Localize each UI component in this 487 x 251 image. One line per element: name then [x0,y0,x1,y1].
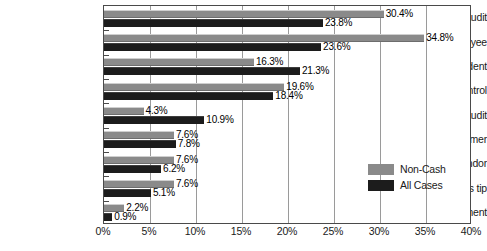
bar-all-cases [104,116,204,124]
value-axis: 0%5%10%15%20%25%30%35%40% [103,226,471,242]
legend-item: Non-Cash [368,163,464,176]
bar-value-label: 7.8% [178,139,200,149]
bar-all-cases [104,67,300,75]
x-tick-label-10%: 10% [185,226,205,237]
x-tick-label-15%: 15% [231,226,251,237]
x-tick-label-35%: 35% [415,226,435,237]
category-tick [104,176,109,177]
legend-swatch-icon [368,164,394,175]
bar-non-cash [104,34,424,42]
legend-swatch-icon [368,180,394,191]
legend-item: All Cases [368,179,464,192]
bar-value-label: 23.6% [323,42,350,52]
bar-value-label: 34.8% [426,33,453,43]
category-tick [104,152,109,153]
bar-non-cash [104,131,174,139]
bar-value-label: 30.4% [386,9,413,19]
x-tick-label-5%: 5% [142,226,157,237]
horizontal-bar-chart: Internal auditTip from employeeBy accide… [0,0,487,251]
category-tick [104,55,109,56]
bar-value-label: 21.3% [302,66,329,76]
bar-non-cash [104,58,254,66]
category-tick [104,30,109,31]
bar-all-cases [104,140,176,148]
bar-all-cases [104,189,151,197]
x-tick-label-30%: 30% [369,226,389,237]
bar-value-label: 7.6% [176,179,198,189]
bar-all-cases [104,19,323,27]
bar-all-cases [104,43,321,51]
bar-non-cash [104,107,144,115]
category-tick [104,128,109,129]
bar-non-cash [104,83,284,91]
bar-value-label: 5.1% [153,188,175,198]
category-tick [104,79,109,80]
category-tick [104,201,109,202]
bar-all-cases [104,92,273,100]
bar-value-label: 4.3% [146,106,168,116]
category-tick [104,103,109,104]
x-tick-label-25%: 25% [323,226,343,237]
legend-label: All Cases [400,180,443,191]
x-tick-label-20%: 20% [277,226,297,237]
bar-value-label: 6.2% [163,164,185,174]
chart-legend: Non-CashAll Cases [368,163,464,195]
bar-value-label: 10.9% [206,115,233,125]
bar-value-label: 23.8% [325,18,352,28]
bar-all-cases [104,165,161,173]
bar-value-label: 18.4% [275,91,302,101]
bar-value-label: 0.9% [114,212,136,222]
bar-all-cases [104,213,112,221]
x-tick-label-0%: 0% [96,226,111,237]
legend-label: Non-Cash [400,164,446,175]
x-tick-label-40%: 40% [461,226,481,237]
bar-value-label: 16.3% [256,57,283,67]
